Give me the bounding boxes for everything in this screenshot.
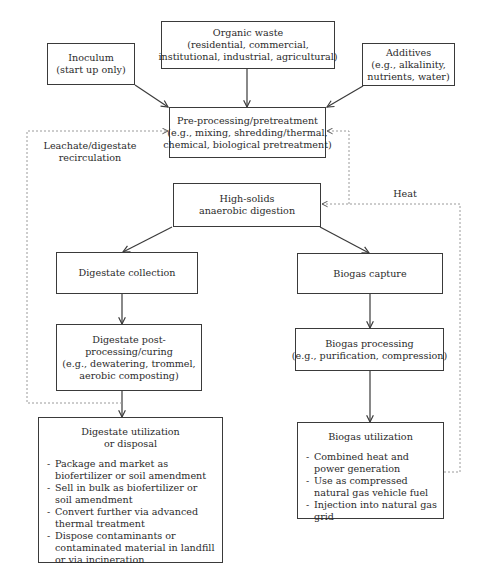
edge-label-recirculation: Leachate/digestate recirculation <box>40 140 140 164</box>
node-detail: (e.g., mixing, shredding/thermal, <box>167 127 327 139</box>
list-item: Package and market as biofertilizer or s… <box>47 458 216 482</box>
list-item: Injection into natural gas grid <box>306 499 437 523</box>
node-subtitle: or disposal <box>104 438 157 450</box>
node-biogas-processing: Biogas processing (e.g., purification, c… <box>295 328 444 371</box>
node-title: Digestate collection <box>79 267 176 279</box>
edge-label-text: Heat <box>393 188 417 199</box>
node-preprocessing: Pre-processing/pretreatment (e.g., mixin… <box>169 107 326 158</box>
node-title: Digestate post- <box>92 334 166 346</box>
node-title: Inoculum <box>68 52 114 64</box>
node-biogas-capture: Biogas capture <box>297 253 443 294</box>
edge-label-heat: Heat <box>390 188 420 200</box>
node-organic-waste: Organic waste (residential, commercial, … <box>161 21 335 69</box>
node-digestate-collection: Digestate collection <box>56 252 198 294</box>
node-title: Digestate utilization <box>81 426 180 438</box>
list-item: Convert further via advanced thermal tre… <box>47 506 216 530</box>
list-item: Combined heat and power generation <box>306 451 437 475</box>
biogas-utilization-list: Combined heat and power generation Use a… <box>298 451 443 523</box>
node-detail: processing/curing <box>85 346 173 358</box>
node-title: Biogas utilization <box>328 431 413 443</box>
node-detail: chemical, biological pretreatment) <box>163 139 332 151</box>
node-detail: (e.g., dewatering, trommel, <box>62 358 195 370</box>
node-title: High-solids <box>220 193 275 205</box>
node-detail: (e.g., purification, compression) <box>292 350 447 362</box>
node-title: Biogas capture <box>333 268 406 280</box>
list-item: Dispose contaminants or contaminated mat… <box>47 530 216 566</box>
node-detail: institutional, industrial, agricultural) <box>158 51 337 63</box>
digestate-utilization-list: Package and market as biofertilizer or s… <box>39 458 222 566</box>
node-additives: Additives (e.g., alkalinity, nutrients, … <box>362 43 455 86</box>
node-detail: anaerobic digestion <box>199 205 295 217</box>
edge-label-line: recirculation <box>40 152 140 164</box>
node-detail: (e.g., alkalinity, <box>371 59 446 71</box>
node-detail: nutrients, water) <box>367 71 449 83</box>
node-title: Additives <box>386 47 431 59</box>
node-digestion: High-solids anaerobic digestion <box>173 183 321 227</box>
arrow-additives-to-preprocessing <box>327 86 363 107</box>
node-detail: aerobic composting) <box>79 370 178 382</box>
arrow-inoculum-to-preprocessing <box>135 85 168 107</box>
node-title: Organic waste <box>213 27 283 39</box>
node-inoculum: Inoculum (start up only) <box>47 43 135 85</box>
node-detail: (start up only) <box>56 64 125 76</box>
list-item: Sell in bulk as biofertilizer or soil am… <box>47 482 216 506</box>
edge-label-line: Leachate/digestate <box>40 140 140 152</box>
node-biogas-utilization: Biogas utilization Combined heat and pow… <box>297 422 444 519</box>
node-digestate-utilization: Digestate utilization or disposal Packag… <box>38 417 223 563</box>
node-title: Biogas processing <box>325 338 414 350</box>
node-digestate-post-processing: Digestate post- processing/curing (e.g.,… <box>56 324 202 391</box>
arrow-digestion-to-biogas-capture <box>320 227 369 253</box>
node-detail: (residential, commercial, <box>187 39 309 51</box>
arrow-digestion-to-digestate-collection <box>123 227 172 252</box>
list-item: Use as compressed natural gas vehicle fu… <box>306 475 437 499</box>
node-title: Pre-processing/pretreatment <box>177 115 318 127</box>
